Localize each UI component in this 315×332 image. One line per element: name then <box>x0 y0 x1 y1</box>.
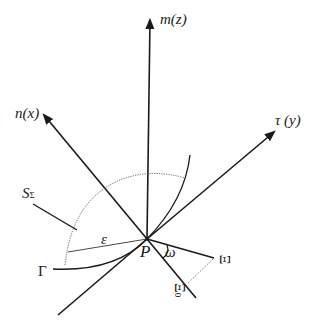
omega-label: ω <box>165 245 176 260</box>
surface-leader-line <box>33 204 77 230</box>
xi-xi0-dotted <box>187 259 213 284</box>
diagram-canvas <box>0 0 315 332</box>
gamma-label: Γ <box>38 264 47 279</box>
m-axis <box>147 20 150 239</box>
xi0-label-sub: 0 <box>173 293 183 298</box>
n-axis-label: n(x) <box>15 106 39 121</box>
tau-axis <box>147 132 274 239</box>
xi0-label-main: Ξ <box>172 283 188 293</box>
surface-label: SΣ <box>22 186 35 201</box>
upper-curve <box>147 155 190 239</box>
xi-line <box>147 239 214 258</box>
origin-point <box>145 237 149 241</box>
m-axis-label: m(z) <box>160 12 187 27</box>
epsilon-label: ε <box>101 232 107 247</box>
surface-label-sub: Σ <box>30 190 35 200</box>
xi-label: Ξ <box>217 255 232 265</box>
surface-label-main: S <box>22 185 30 201</box>
tau-axis-label: τ (y) <box>275 113 301 128</box>
xi0-label: Ξ0 <box>172 283 187 297</box>
origin-label: P <box>140 243 150 260</box>
gamma-curve <box>53 239 147 269</box>
